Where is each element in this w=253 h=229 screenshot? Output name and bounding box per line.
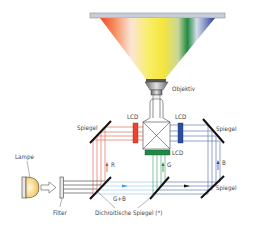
label-b: B xyxy=(222,159,226,166)
light-cone xyxy=(100,18,215,79)
arrow-b xyxy=(217,160,220,170)
mirror-right-bottom-label: Spiegel xyxy=(216,184,237,192)
dichroic-label: Dichroitische Spiegel (*) xyxy=(95,209,162,217)
lcd-green-label: LCD xyxy=(172,149,183,156)
lamp-leader xyxy=(27,161,30,178)
lens-tube xyxy=(143,99,170,122)
label-gb: G+B xyxy=(113,195,126,202)
filter-label: Filter xyxy=(53,209,67,216)
objective-label: Objektiv xyxy=(172,85,196,93)
lamp xyxy=(22,177,39,198)
arrow-r xyxy=(106,162,109,172)
lcd-red-label: LCD xyxy=(127,113,138,120)
label-g: G xyxy=(167,161,171,168)
projection-screen xyxy=(90,13,225,18)
lcd-blue xyxy=(178,123,183,143)
arrow-g xyxy=(162,162,165,172)
projector-diagram: Objektiv xyxy=(0,0,253,229)
dichroic-prism xyxy=(143,122,170,149)
label-r: R xyxy=(111,161,115,168)
mirror-left-label: Spiegel xyxy=(77,124,98,132)
light-arrow xyxy=(41,182,56,193)
mirror-right-top-label: Spiegel xyxy=(216,125,237,133)
blue-forward-arrow xyxy=(184,185,190,188)
filter-leader xyxy=(60,198,62,207)
lcd-green xyxy=(145,150,170,155)
objective-lens xyxy=(145,79,168,99)
dichroic-leader-2 xyxy=(138,194,155,208)
gb-arrow xyxy=(122,185,128,188)
lcd-blue-label: LCD xyxy=(175,113,186,120)
filter xyxy=(60,177,64,198)
lamp-label: Lampe xyxy=(15,153,34,161)
lcd-red xyxy=(133,123,138,143)
